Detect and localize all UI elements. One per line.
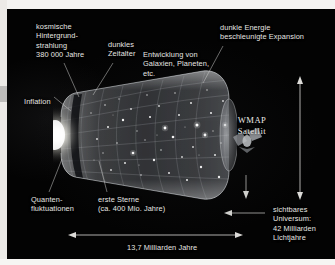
figure-container: kosmische Hintergrund- strahlung 380 000… xyxy=(0,0,335,265)
label-quantum-fluctuations: Quanten- fluktuationen xyxy=(31,195,74,214)
label-cosmic-background-radiation: kosmische Hintergrund- strahlung 380 000… xyxy=(36,22,84,60)
label-dark-energy: dunkle Energie beschleunigte Expansion xyxy=(220,23,304,42)
label-dark-age: dunkles Zeitalter xyxy=(108,40,135,59)
funnel-svg xyxy=(53,65,237,205)
arrow-down-icon xyxy=(243,175,249,199)
page-margin-top xyxy=(0,0,335,9)
label-inflation: Inflation xyxy=(24,97,51,106)
universe-timeline-canvas: kosmische Hintergrund- strahlung 380 000… xyxy=(7,9,335,259)
arrow-left-icon xyxy=(224,210,265,216)
label-visible-universe: sichtbares Universum: 42 Milliarden Lich… xyxy=(273,205,316,243)
page-margin-bottom xyxy=(0,259,335,265)
universe-expansion-funnel xyxy=(53,65,237,205)
label-galaxy-formation: Entwicklung von Galaxien, Planeten, etc. xyxy=(143,50,209,78)
page-margin-left xyxy=(0,0,7,265)
label-first-stars: erste Sterne (ca. 400 Mio. Jahre) xyxy=(98,195,165,214)
double-arrow-vertical-icon xyxy=(297,76,303,200)
double-arrow-horizontal-icon xyxy=(68,232,243,238)
label-wmap-satellite: WMAP Satellit xyxy=(228,115,276,136)
label-universe-age: 13,7 Milliarden Jahre xyxy=(127,243,197,252)
